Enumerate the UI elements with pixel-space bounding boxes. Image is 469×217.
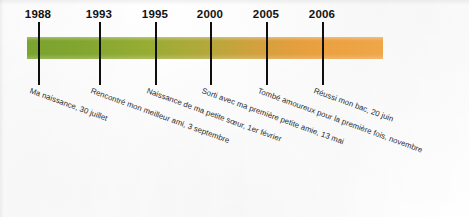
- event-tick: [38, 22, 40, 38]
- event-tick: [155, 37, 157, 85]
- timeline-bar-highlight-bottom: [27, 54, 383, 59]
- timeline-diagram: 1988Ma naissance, 30 juillet1993Rencontr…: [0, 0, 469, 217]
- event-tick: [99, 22, 101, 38]
- event-year-label: 1988: [25, 8, 51, 20]
- event-tick: [210, 22, 212, 38]
- timeline-bar-highlight-top: [27, 37, 383, 41]
- event-tick: [38, 37, 40, 85]
- page-left-shadow: [0, 0, 4, 217]
- event-year-label: 2006: [309, 8, 335, 20]
- event-tick: [99, 37, 101, 85]
- event-year-label: 1995: [142, 8, 168, 20]
- event-tick: [266, 22, 268, 38]
- page-top-shadow: [0, 0, 469, 5]
- event-year-label: 2000: [197, 8, 223, 20]
- event-tick: [155, 22, 157, 38]
- timeline-bar: [27, 37, 383, 59]
- event-year-label: 2005: [253, 8, 279, 20]
- event-tick: [210, 37, 212, 85]
- event-year-label: 1993: [86, 8, 112, 20]
- event-tick: [266, 37, 268, 85]
- event-tick: [322, 37, 324, 85]
- event-tick: [322, 22, 324, 38]
